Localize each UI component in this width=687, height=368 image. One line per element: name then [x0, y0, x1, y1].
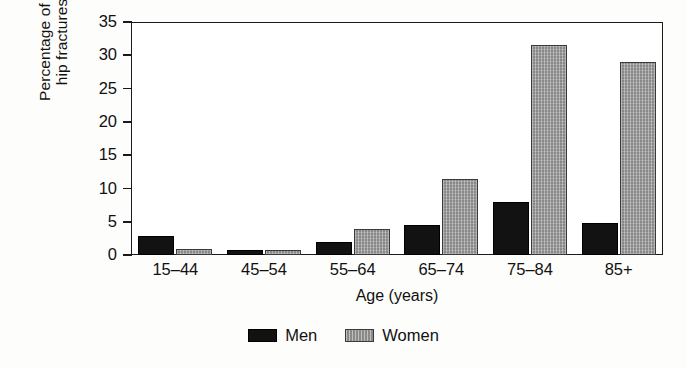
legend-label-men: Men — [285, 326, 317, 345]
y-tick-label: 10 — [57, 180, 123, 196]
bar-men-4 — [493, 202, 529, 255]
bar-group — [486, 22, 575, 255]
bar-group — [574, 22, 663, 255]
bar-group — [308, 22, 397, 255]
bar-men-3 — [404, 225, 440, 255]
bar-group — [397, 22, 486, 255]
bar-women-3 — [442, 179, 478, 255]
x-axis-tick-labels: 15–4445–5455–6465–7475–8485+ — [131, 259, 663, 283]
bar-women-2 — [354, 229, 390, 255]
women-swatch-icon — [345, 329, 374, 342]
men-swatch-icon — [248, 329, 277, 342]
x-tick-label: 45–54 — [220, 259, 309, 279]
legend-label-women: Women — [382, 326, 439, 345]
legend-item-men: Men — [248, 326, 317, 345]
bar-men-5 — [582, 223, 618, 255]
x-tick-label: 75–84 — [486, 259, 575, 279]
x-tick-label: 85+ — [574, 259, 663, 279]
x-axis-title: Age (years) — [131, 287, 663, 305]
bar-women-5 — [620, 62, 656, 255]
bar-men-2 — [316, 242, 352, 255]
x-tick-label: 55–64 — [308, 259, 397, 279]
y-tick-label: 35 — [57, 13, 123, 29]
y-tick-label: 30 — [57, 46, 123, 62]
y-tick-label: 5 — [57, 213, 123, 229]
bar-men-0 — [138, 236, 174, 255]
bar-women-4 — [531, 45, 567, 255]
bars-layer — [131, 22, 663, 255]
x-tick-label: 65–74 — [397, 259, 486, 279]
hip-fracture-bar-chart: Percentage of all hip fractures 05101520… — [0, 0, 687, 368]
y-tick-label: 15 — [57, 146, 123, 162]
legend-item-women: Women — [345, 326, 439, 345]
bar-women-0 — [176, 249, 212, 255]
y-tick-label: 20 — [57, 113, 123, 129]
bar-group — [131, 22, 220, 255]
bar-group — [220, 22, 309, 255]
y-tick-label: 25 — [57, 80, 123, 96]
bar-women-1 — [265, 250, 301, 255]
chart-legend: Men Women — [0, 326, 687, 345]
bar-men-1 — [227, 250, 263, 255]
y-tick-label: 0 — [57, 246, 123, 262]
x-tick-label: 15–44 — [131, 259, 220, 279]
